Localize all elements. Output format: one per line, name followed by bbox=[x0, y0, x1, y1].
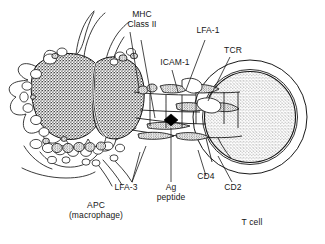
granule bbox=[85, 143, 95, 152]
vesicle bbox=[82, 159, 90, 165]
granule bbox=[96, 142, 105, 150]
apc-nucleus-lobe-right bbox=[93, 57, 144, 139]
granule bbox=[52, 53, 58, 58]
mhc-class-ii-molecule bbox=[138, 86, 148, 94]
vesicle bbox=[22, 82, 32, 90]
lfa-3-molecule bbox=[138, 132, 174, 139]
pseudopod-filament bbox=[22, 168, 95, 178]
vesicle bbox=[110, 155, 118, 161]
label-tcr: TCR bbox=[216, 46, 250, 56]
apc-nucleus bbox=[31, 53, 144, 139]
granule bbox=[74, 142, 84, 151]
label-lfa-1: LFA-1 bbox=[186, 26, 230, 36]
vesicle bbox=[110, 59, 118, 65]
granule bbox=[119, 55, 127, 61]
t-cell-nucleus bbox=[205, 72, 296, 163]
leader-lfa-3-b bbox=[132, 152, 140, 182]
vesicle bbox=[23, 104, 33, 113]
vesicle bbox=[48, 156, 57, 163]
vesicle bbox=[62, 157, 70, 163]
leader-lfa-3 bbox=[132, 146, 146, 182]
vesicle bbox=[31, 115, 42, 124]
granule bbox=[30, 95, 35, 99]
granule bbox=[43, 138, 50, 144]
vesicle bbox=[30, 139, 42, 148]
vesicle bbox=[57, 48, 67, 56]
label-lfa-3: LFA-3 bbox=[104, 183, 148, 193]
granule bbox=[52, 143, 62, 152]
label-apc: APC (macrophage) bbox=[58, 201, 134, 221]
t-cell bbox=[193, 60, 307, 174]
vesicle bbox=[115, 144, 124, 152]
granule bbox=[61, 137, 67, 142]
label-cd4: CD4 bbox=[188, 172, 224, 182]
label-ag-peptide: Ag peptide bbox=[148, 183, 194, 203]
label-t-cell: T cell bbox=[232, 218, 272, 228]
vesicle bbox=[31, 70, 42, 79]
label-cd2: CD2 bbox=[216, 183, 250, 193]
vesicle bbox=[39, 128, 49, 137]
vesicle bbox=[20, 92, 28, 102]
label-mhc-class-ii: MHC Class II bbox=[116, 10, 168, 30]
label-icam-1: ICAM-1 bbox=[152, 58, 198, 68]
diagram-canvas bbox=[0, 0, 325, 244]
immunology-diagram: MHC Class II ICAM-1 LFA-1 TCR LFA-3 Ag p… bbox=[0, 0, 325, 244]
vesicle bbox=[92, 160, 100, 166]
mhc-class-ii-molecule bbox=[147, 84, 157, 92]
granule bbox=[63, 143, 73, 152]
